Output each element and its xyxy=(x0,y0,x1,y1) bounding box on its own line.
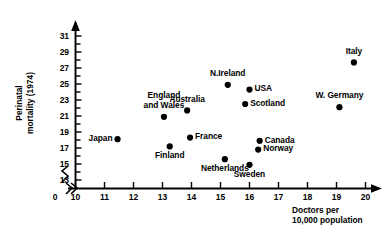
y-tick-label: 13 xyxy=(49,175,69,185)
data-point xyxy=(161,114,167,120)
data-point xyxy=(167,143,173,149)
data-point-label-line: Australia xyxy=(169,95,204,105)
data-point-label: Norway xyxy=(263,144,293,154)
data-point-label: Italy xyxy=(346,47,363,57)
y-tick-label: 19 xyxy=(49,127,69,137)
y-axis-title-line-1: Perinatal xyxy=(14,72,25,134)
y-tick-label: 29 xyxy=(49,47,69,57)
data-point-label: Australia xyxy=(169,95,204,105)
x-axis-origin-label: 0 xyxy=(44,192,66,202)
y-tick-label: 31 xyxy=(49,31,69,41)
data-point-label: Scotland xyxy=(250,99,285,109)
x-axis-title-line-1: Doctors per xyxy=(292,205,363,215)
data-point-label: Sweden xyxy=(234,170,265,180)
x-tick-label: 10 xyxy=(65,192,87,202)
data-point xyxy=(114,136,120,142)
data-point-label-line: Finland xyxy=(155,151,184,161)
data-point-label-line: Italy xyxy=(346,47,363,57)
x-tick-label: 13 xyxy=(152,192,174,202)
x-tick-label: 15 xyxy=(210,192,232,202)
data-point xyxy=(225,82,231,88)
data-point xyxy=(222,156,228,162)
y-axis xyxy=(71,20,80,188)
y-tick-label: 23 xyxy=(49,95,69,105)
data-point-label-line: W. Germany xyxy=(315,91,363,101)
y-tick-label: 17 xyxy=(49,143,69,153)
data-point-label: Canada xyxy=(265,136,295,146)
data-point-label: W. Germany xyxy=(315,91,363,101)
data-point-label-line: Scotland xyxy=(250,99,285,109)
data-point-label-line: Sweden xyxy=(234,170,265,180)
data-point-label: Finland xyxy=(155,151,184,161)
data-point-label: France xyxy=(195,132,222,142)
data-point xyxy=(255,147,261,153)
y-axis-title-line-2: mortality (1974) xyxy=(24,72,35,134)
y-axis-title: Perinatal mortality (1974) xyxy=(4,38,44,168)
data-point xyxy=(187,135,193,141)
x-axis-title-line-2: 10,000 population xyxy=(292,215,363,225)
data-point xyxy=(246,87,252,93)
x-tick-label: 11 xyxy=(94,192,116,202)
scatter-chart: Perinatal mortality (1974) Doctors per 1… xyxy=(0,0,392,245)
data-point xyxy=(336,104,342,110)
y-tick-label: 21 xyxy=(49,111,69,121)
y-tick-label: 15 xyxy=(49,159,69,169)
x-axis-title: Doctors per 10,000 population xyxy=(292,205,363,225)
x-tick-label: 12 xyxy=(123,192,145,202)
data-point xyxy=(242,101,248,107)
y-tick-label: 25 xyxy=(49,79,69,89)
data-point-label-line: USA xyxy=(255,84,273,94)
data-point-label: N.Ireland xyxy=(210,69,245,79)
x-tick-label: 19 xyxy=(326,192,348,202)
data-point-label-line: France xyxy=(195,132,222,142)
data-point-label-line: Japan xyxy=(89,134,113,144)
x-tick-label: 17 xyxy=(268,192,290,202)
x-tick-label: 14 xyxy=(181,192,203,202)
data-point-label-line: Canada xyxy=(265,136,295,146)
data-point-label-line: N.Ireland xyxy=(210,69,245,79)
data-point-label: USA xyxy=(255,84,273,94)
data-point xyxy=(351,59,357,65)
y-tick-label: 27 xyxy=(49,63,69,73)
x-tick-label: 18 xyxy=(297,192,319,202)
data-point-label-line: Norway xyxy=(263,144,293,154)
data-point xyxy=(184,107,190,113)
x-tick-label: 20 xyxy=(355,192,377,202)
data-point-label: Japan xyxy=(89,134,113,144)
data-point xyxy=(257,138,263,144)
x-tick-label: 16 xyxy=(239,192,261,202)
